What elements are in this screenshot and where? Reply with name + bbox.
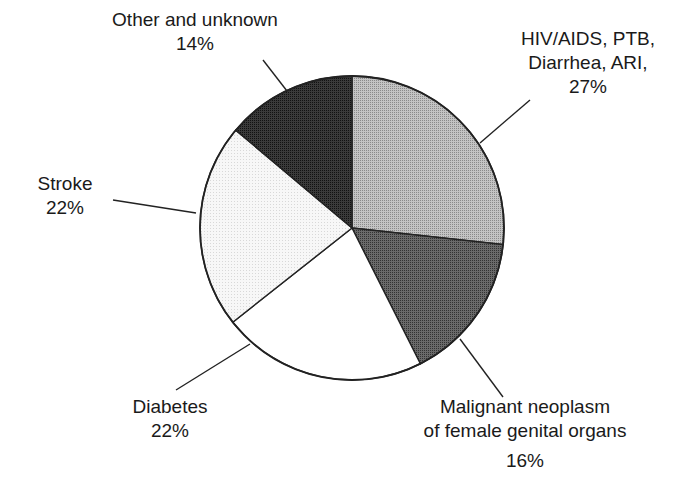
label-diabetes-line1: Diabetes [105, 395, 235, 419]
label-diabetes: Diabetes 22% [105, 395, 235, 443]
label-malignant-value: 16% [400, 449, 650, 473]
leader-line-diabetes [176, 344, 250, 390]
label-stroke: Stroke 22% [10, 172, 120, 220]
label-hiv-value: 27% [478, 75, 695, 99]
label-other-value: 14% [95, 32, 295, 56]
label-other-line1: Other and unknown [95, 8, 295, 32]
label-malignant: Malignant neoplasm of female genital org… [400, 395, 650, 473]
leader-line-malignant [460, 339, 503, 397]
leader-line-hiv [480, 100, 530, 143]
leader-line-stroke [113, 200, 196, 213]
pie-slices [200, 76, 504, 380]
label-stroke-value: 22% [10, 196, 120, 220]
label-other: Other and unknown 14% [95, 8, 295, 56]
label-hiv-line2: Diarrhea, ARI, [478, 51, 695, 75]
label-malignant-line1: Malignant neoplasm [400, 395, 650, 419]
label-hiv: HIV/AIDS, PTB, Diarrhea, ARI, 27% [478, 27, 695, 99]
label-hiv-line1: HIV/AIDS, PTB, [478, 27, 695, 51]
leader-line-other [263, 60, 287, 91]
label-stroke-line1: Stroke [10, 172, 120, 196]
label-diabetes-value: 22% [105, 419, 235, 443]
label-malignant-line2: of female genital organs [400, 419, 650, 443]
slice-hiv [352, 76, 504, 245]
